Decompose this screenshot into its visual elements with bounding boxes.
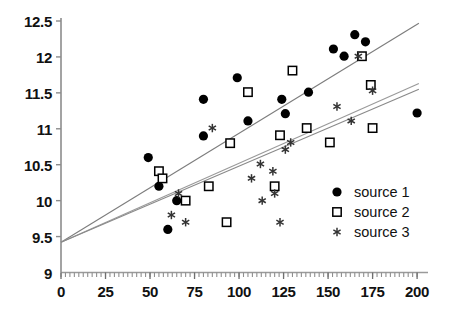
marker-asterisk (276, 218, 283, 226)
y-tick-label: 12.5 (24, 13, 52, 30)
marker-open-square (205, 182, 213, 190)
marker-open-square (276, 131, 284, 139)
marker-filled-circle (350, 30, 359, 39)
y-tick-label: 11.5 (25, 84, 52, 101)
marker-open-square (158, 174, 166, 182)
marker-filled-circle (233, 73, 242, 82)
legend-item-source-3[interactable]: source 3 (326, 223, 410, 241)
x-tick-label: 175 (361, 283, 385, 300)
y-tick-label: 10.5 (24, 156, 52, 173)
y-tick-label: 12 (36, 48, 52, 65)
marker-filled-circle (172, 196, 181, 205)
legend-label: source 3 (348, 224, 410, 240)
y-tick-label: 9.5 (32, 228, 52, 245)
marker-open-square (333, 208, 341, 216)
marker-filled-circle (243, 116, 252, 125)
scatter-chart: 99.51010.51111.51212.5 02550751001251501… (0, 0, 451, 313)
marker-open-square (367, 81, 375, 89)
plot-area (0, 0, 451, 313)
marker-filled-circle (339, 52, 348, 61)
marker-open-square (303, 124, 311, 132)
x-tick-label: 150 (316, 283, 340, 300)
marker-asterisk (182, 218, 189, 226)
x-tick-label: 0 (57, 283, 65, 300)
marker-filled-circle (144, 153, 153, 162)
legend-label: source 1 (348, 184, 410, 200)
legend-marker-asterisk-icon (326, 223, 348, 241)
marker-open-square (181, 196, 189, 204)
legend-label: source 2 (348, 204, 410, 220)
marker-filled-circle (199, 131, 208, 140)
marker-open-square (368, 124, 376, 132)
y-tick-label: 11 (37, 120, 52, 137)
legend-item-source-1[interactable]: source 1 (326, 183, 410, 201)
marker-filled-circle (199, 95, 208, 104)
marker-asterisk (333, 102, 340, 110)
legend-item-source-2[interactable]: source 2 (326, 203, 410, 221)
marker-filled-circle (332, 187, 341, 196)
marker-asterisk (282, 145, 289, 153)
x-tick-label: 25 (97, 283, 113, 300)
marker-open-square (270, 182, 278, 190)
x-tick-label: 200 (405, 283, 429, 300)
marker-open-square (226, 139, 234, 147)
marker-asterisk (259, 196, 266, 204)
marker-open-square (326, 138, 334, 146)
marker-asterisk (168, 211, 175, 219)
legend-marker-open-square-icon (326, 203, 348, 221)
marker-asterisk (333, 228, 340, 236)
x-tick-label: 125 (271, 283, 295, 300)
marker-filled-circle (329, 44, 338, 53)
marker-filled-circle (281, 109, 290, 118)
marker-open-square (222, 218, 230, 226)
legend-marker-filled-circle-icon (326, 183, 348, 201)
x-tick-label: 50 (142, 283, 158, 300)
marker-open-square (244, 88, 252, 96)
y-tick-label: 10 (36, 192, 52, 209)
marker-asterisk (269, 167, 276, 175)
marker-asterisk (348, 117, 355, 125)
marker-filled-circle (163, 225, 172, 234)
marker-open-square (288, 66, 296, 74)
marker-filled-circle (304, 88, 313, 97)
y-tick-label: 9 (44, 264, 52, 281)
legend: source 1source 2source 3 (326, 183, 410, 241)
marker-asterisk (209, 124, 216, 132)
marker-asterisk (257, 160, 264, 168)
marker-filled-circle (361, 37, 370, 46)
marker-asterisk (248, 174, 255, 182)
x-tick-label: 100 (227, 283, 251, 300)
x-tick-label: 75 (186, 283, 202, 300)
marker-filled-circle (412, 108, 421, 117)
marker-filled-circle (277, 95, 286, 104)
